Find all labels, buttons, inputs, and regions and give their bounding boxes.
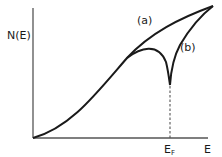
density-of-states-diagram: N(E) (a) (b) EF E	[0, 0, 222, 157]
x-axis-label: E	[204, 143, 211, 156]
fermi-energy-label: EF	[164, 143, 175, 157]
fermi-energy-label-main: E	[164, 143, 171, 156]
y-axis-label: N(E)	[7, 29, 31, 42]
fermi-energy-label-sub: F	[171, 149, 175, 157]
curve-a	[33, 6, 213, 138]
curve-a-label: (a)	[137, 14, 152, 27]
curve-b-label: (b)	[180, 41, 196, 54]
